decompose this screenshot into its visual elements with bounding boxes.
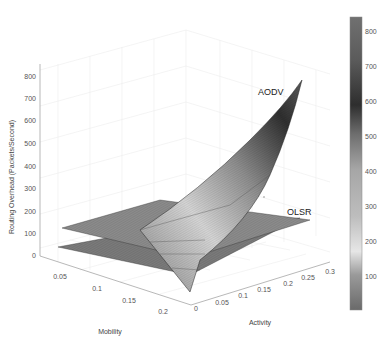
svg-text:200: 200	[365, 238, 377, 245]
svg-text:600: 600	[365, 98, 377, 105]
svg-text:300: 300	[365, 203, 377, 210]
svg-text:0.15: 0.15	[257, 286, 271, 293]
svg-text:600: 600	[24, 117, 36, 124]
annotation-olsr: OLSR	[287, 207, 312, 217]
svg-text:0.2: 0.2	[283, 280, 293, 287]
svg-text:0.25: 0.25	[301, 274, 315, 281]
svg-text:0.15: 0.15	[122, 297, 136, 304]
svg-text:0.05: 0.05	[215, 299, 229, 306]
svg-text:300: 300	[24, 185, 36, 192]
annotation-aodv: AODV	[258, 87, 284, 97]
z-axis-ticks: 0 100 200 300 400 500 600 700 800	[24, 73, 36, 259]
svg-text:0: 0	[194, 305, 198, 312]
stray-marker	[263, 196, 264, 197]
svg-text:0: 0	[32, 252, 36, 259]
colorbar: 100 200 300 400 500 600 700 800	[350, 17, 377, 310]
surface-plot-figure: 0 100 200 300 400 500 600 700 800 Routin…	[0, 0, 391, 349]
x-axis-ticks: 0.05 0.1 0.15 0.2	[53, 273, 168, 315]
svg-text:400: 400	[365, 168, 377, 175]
svg-text:800: 800	[365, 28, 377, 35]
y-axis-label: Activity	[249, 319, 272, 327]
svg-text:700: 700	[365, 63, 377, 70]
svg-text:400: 400	[24, 163, 36, 170]
svg-text:0.2: 0.2	[158, 308, 168, 315]
svg-text:0.3: 0.3	[325, 268, 335, 275]
y-axis-ticks: 0 0.05 0.1 0.15 0.2 0.25 0.3	[194, 268, 335, 312]
svg-text:0.1: 0.1	[92, 285, 102, 292]
svg-text:100: 100	[24, 230, 36, 237]
svg-text:500: 500	[24, 140, 36, 147]
svg-text:800: 800	[24, 73, 36, 80]
svg-text:100: 100	[365, 273, 377, 280]
x-axis-label: Mobility	[98, 328, 122, 336]
svg-text:500: 500	[365, 133, 377, 140]
svg-text:0.05: 0.05	[53, 273, 67, 280]
svg-text:700: 700	[24, 95, 36, 102]
z-axis-label: Routing Overhead (Packets/Second)	[8, 120, 16, 234]
svg-text:200: 200	[24, 208, 36, 215]
svg-text:0.1: 0.1	[238, 292, 248, 299]
aodv-surface	[140, 80, 302, 292]
